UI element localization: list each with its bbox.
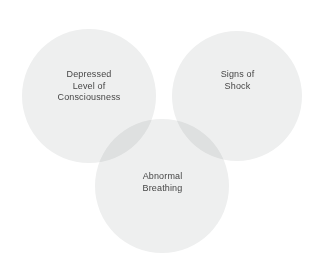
label-line: Abnormal [75, 171, 250, 183]
label-line: Level of [0, 81, 178, 93]
venn-diagram: Depressed Level of Consciousness Signs o… [0, 0, 321, 268]
label-line: Breathing [75, 183, 250, 195]
label-depressed-level-of-consciousness: Depressed Level of Consciousness [0, 69, 178, 104]
label-abnormal-breathing: Abnormal Breathing [75, 171, 250, 194]
label-line: Depressed [0, 69, 178, 81]
venn-diagram-canvas [0, 0, 321, 268]
label-line: Shock [160, 81, 315, 93]
label-signs-of-shock: Signs of Shock [160, 69, 315, 92]
label-line: Signs of [160, 69, 315, 81]
label-line: Consciousness [0, 92, 178, 104]
